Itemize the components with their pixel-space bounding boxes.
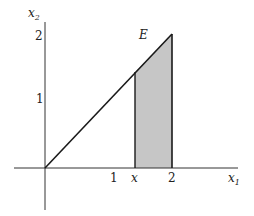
y-tick-1: 1 <box>36 92 44 106</box>
x-tick-2: 2 <box>168 171 176 185</box>
y-axis-label: x2 <box>28 6 40 22</box>
x-axis-label: x1 <box>228 171 240 187</box>
x-tick-1: 1 <box>110 171 118 185</box>
x-tick-x: x <box>131 171 138 185</box>
diagram-canvas: E x2 2 1 1 x 2 x1 <box>0 0 254 216</box>
y-tick-2: 2 <box>35 29 43 43</box>
region-label: E <box>138 28 148 42</box>
